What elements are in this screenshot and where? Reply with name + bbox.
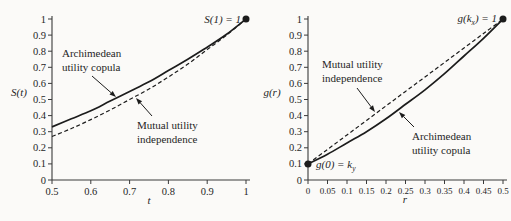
y-tick-label: 0.2 xyxy=(33,142,46,153)
y-tick-label: 0.7 xyxy=(33,62,46,73)
x-tick-label: 0.4 xyxy=(458,186,470,196)
y-tick-label: 0.1 xyxy=(33,158,46,169)
x-tick-label: 0.9 xyxy=(201,186,214,197)
archimedean-callout-arrow-line xyxy=(404,117,414,127)
endpoint-annotation: g(kx) = 1 xyxy=(458,12,497,27)
left-y-axis-label: S(t) xyxy=(11,86,27,99)
x-tick-label: 0.15 xyxy=(359,186,375,196)
y-tick-label: 0.8 xyxy=(33,46,46,57)
archimedean-callout-line: Archimedean xyxy=(412,130,472,142)
x-tick-label: 0.35 xyxy=(437,186,453,196)
mutual-independence-callout-arrow-line xyxy=(357,88,371,107)
mutual-independence-callout-line: independence xyxy=(137,133,198,145)
left-chart: 00.10.20.30.40.50.60.70.80.910.50.60.70.… xyxy=(11,13,250,206)
right-chart: 00.10.20.30.40.50.60.70.80.9100.050.10.1… xyxy=(263,12,509,205)
mutual-independence-callout-label: Mutual utilityindependence xyxy=(322,58,383,84)
endpoint-annotation-part: S(1) = 1 xyxy=(204,13,241,26)
mutual-independence-callout-line: independence xyxy=(322,72,383,84)
archimedean-callout-arrow-line xyxy=(92,76,111,93)
x-tick-label: 0.8 xyxy=(162,186,175,197)
archimedean-callout-label: Archimedeanutility copula xyxy=(62,47,122,73)
endpoint-annotation-part: g(k xyxy=(458,12,473,25)
y-tick-label: 0.2 xyxy=(289,142,302,153)
x-tick-label: 0 xyxy=(306,186,311,196)
y-tick-label: 0.9 xyxy=(289,30,302,41)
mutual-independence-callout-line: Mutual utility xyxy=(137,119,198,131)
endpoint-marker xyxy=(243,16,250,23)
y-tick-label: 0 xyxy=(297,175,302,186)
endpoint-annotation: S(1) = 1 xyxy=(204,13,241,26)
mutual-independence-callout-arrow-head xyxy=(369,105,375,112)
mutual-independence-callout-label: Mutual utilityindependence xyxy=(137,119,198,145)
y-tick-label: 0.3 xyxy=(289,126,302,137)
endpoint-marker xyxy=(500,16,507,23)
y-tick-label: 0.4 xyxy=(33,110,47,121)
archimedean-callout-label: Archimedeanutility copula xyxy=(412,130,472,156)
x-tick-label: 0.45 xyxy=(476,186,492,196)
left-x-axis-label: t xyxy=(147,194,151,206)
y-tick-label: 0.6 xyxy=(289,78,302,89)
endpoint-annotation-part: ) = 1 xyxy=(474,12,497,25)
y-tick-label: 0.8 xyxy=(289,46,302,57)
archimedean-callout-line: utility copula xyxy=(412,144,470,156)
x-tick-label: 1 xyxy=(243,186,248,197)
y-tick-label: 0.6 xyxy=(33,78,46,89)
endpoint-marker xyxy=(305,160,312,167)
utility-copula-figure: 00.10.20.30.40.50.60.70.80.910.50.60.70.… xyxy=(0,0,511,221)
figure-canvas: 00.10.20.30.40.50.60.70.80.910.50.60.70.… xyxy=(0,0,511,221)
x-tick-label: 0.7 xyxy=(123,186,136,197)
y-tick-label: 0.7 xyxy=(289,62,302,73)
y-tick-label: 0.3 xyxy=(33,126,46,137)
archimedean-callout-line: Archimedean xyxy=(62,47,122,59)
endpoint-annotation-part: g(0) = k xyxy=(316,158,353,171)
y-tick-label: 1 xyxy=(297,14,302,25)
mutual-independence-callout-line: Mutual utility xyxy=(322,58,383,70)
x-tick-label: 0.5 xyxy=(45,186,58,197)
x-tick-label: 0.5 xyxy=(497,186,509,196)
x-tick-label: 0.2 xyxy=(380,186,391,196)
x-tick-label: 0.3 xyxy=(419,186,431,196)
x-tick-label: 0.6 xyxy=(84,186,97,197)
mutual-independence-curve xyxy=(308,19,503,164)
archimedean-callout-line: utility copula xyxy=(62,61,120,73)
y-tick-label: 0.1 xyxy=(289,158,302,169)
y-tick-label: 0.9 xyxy=(33,30,46,41)
y-tick-label: 1 xyxy=(41,14,46,25)
endpoint-annotation-part: y xyxy=(351,164,356,173)
x-tick-label: 0.05 xyxy=(320,186,336,196)
x-tick-label: 0.1 xyxy=(341,186,352,196)
y-tick-label: 0.4 xyxy=(289,110,303,121)
y-tick-label: 0.5 xyxy=(33,94,46,105)
right-y-axis-label: g(r) xyxy=(263,86,280,99)
mutual-independence-callout-arrow-line xyxy=(140,103,152,116)
y-tick-label: 0.5 xyxy=(289,94,302,105)
right-x-axis-label: r xyxy=(403,193,408,205)
endpoint-annotation: g(0) = ky xyxy=(316,158,356,173)
y-tick-label: 0 xyxy=(41,175,46,186)
